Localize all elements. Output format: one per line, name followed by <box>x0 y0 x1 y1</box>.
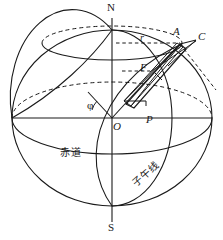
label-radius-r: r <box>140 33 144 43</box>
label-latitude-angle-phi: φ <box>87 100 93 111</box>
horizon-trace-dashed-line <box>180 44 216 90</box>
segment-a-to-o-region-line <box>131 45 180 106</box>
earth-geometry-figure: N S O P A C F r φ 赤道 子午线 <box>0 0 223 240</box>
label-south-pole: S <box>108 222 114 233</box>
label-equator-cjk: 赤道 <box>60 148 81 158</box>
secondary-pole-arc <box>12 30 112 118</box>
label-north-pole: N <box>107 2 115 13</box>
label-point-c: C <box>198 31 205 42</box>
label-center-o: O <box>113 121 121 132</box>
label-point-f: F <box>140 62 147 73</box>
label-point-a: A <box>173 26 180 37</box>
figure-canvas <box>0 0 223 240</box>
label-point-p: P <box>146 114 153 125</box>
